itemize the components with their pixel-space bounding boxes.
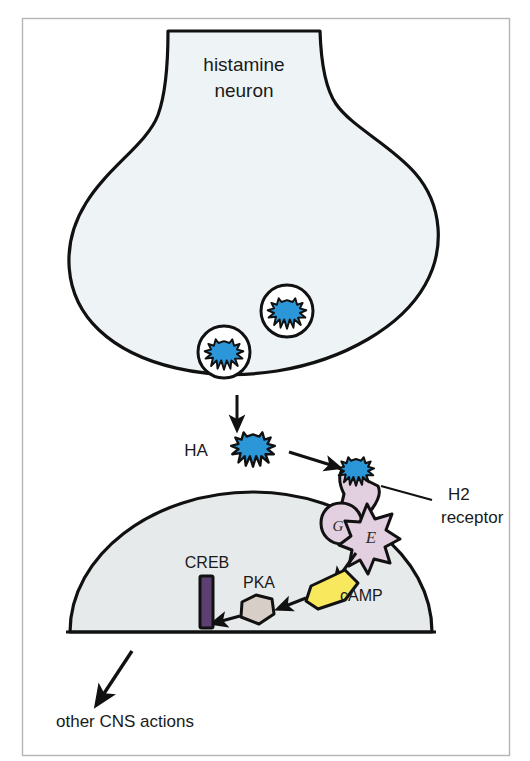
- cns-actions-label: other CNS actions: [56, 712, 194, 731]
- figure-canvas: histamine neuron HA G E: [0, 0, 530, 761]
- h2-receptor-label-line2: receptor: [441, 508, 504, 527]
- histamine-molecule-free: [231, 432, 275, 466]
- presynaptic-label-line1: histamine: [203, 54, 284, 75]
- histamine-bound: [338, 457, 374, 485]
- creb-label: CREB: [185, 554, 229, 571]
- h2-receptor-label-line1: H2: [448, 485, 470, 504]
- g-protein-label: G: [333, 518, 344, 534]
- creb-element: [200, 576, 213, 628]
- camp-label: cAMP: [340, 587, 383, 604]
- signal-transduction-figure: histamine neuron HA G E: [0, 0, 530, 761]
- vesicle-free: [261, 285, 313, 337]
- presynaptic-label-line2: neuron: [214, 80, 273, 101]
- pka-label: PKA: [243, 574, 275, 591]
- enzyme-label: E: [365, 528, 377, 547]
- ha-label: HA: [184, 441, 208, 460]
- vesicle-docked: [198, 326, 250, 378]
